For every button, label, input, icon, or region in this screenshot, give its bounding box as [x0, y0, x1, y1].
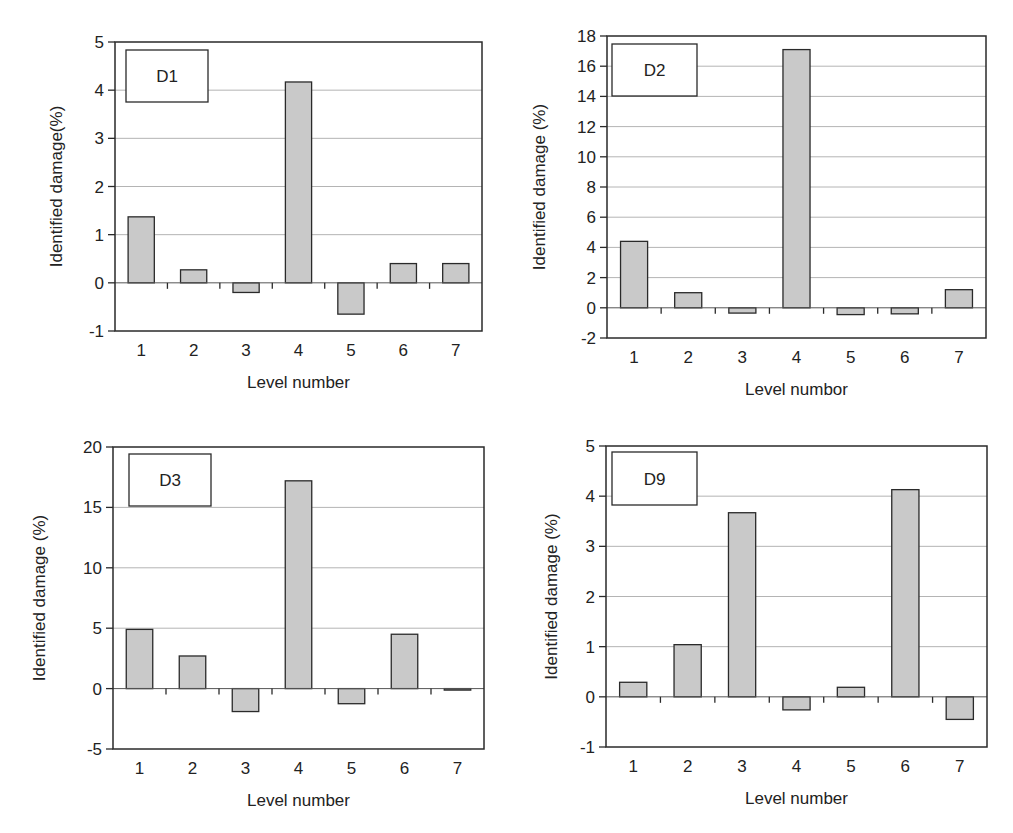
x-tick-label: 4	[792, 348, 801, 367]
bar-level-2	[181, 270, 207, 283]
y-tick-label: -1	[580, 738, 595, 757]
panel-label: D3	[159, 471, 181, 490]
y-tick-label: 8	[587, 178, 596, 197]
y-tick-label: 16	[577, 57, 596, 76]
x-tick-label: 2	[188, 759, 197, 778]
bar-level-5	[837, 687, 864, 697]
y-tick-label: 12	[577, 118, 596, 137]
x-tick-label: 6	[400, 759, 409, 778]
y-tick-label: -1	[89, 322, 104, 341]
y-tick-label: 5	[95, 33, 104, 52]
bar-level-5	[338, 283, 364, 314]
x-tick-label: 5	[846, 348, 855, 367]
bar-level-4	[783, 697, 810, 710]
y-tick-label: 10	[577, 148, 596, 167]
bar-level-6	[390, 264, 416, 283]
y-tick-label: 0	[587, 299, 596, 318]
bar-level-6	[892, 490, 919, 697]
bar-level-3	[729, 308, 756, 313]
x-axis-label: Level number	[247, 373, 350, 392]
panel-label-box: D9	[612, 452, 697, 505]
y-axis-label: Identified damage(%)	[47, 106, 66, 268]
chart-d2: D2-20246810121416181234567Level numborId…	[530, 27, 986, 399]
x-tick-label: 6	[399, 341, 408, 360]
x-tick-label: 2	[189, 341, 198, 360]
panel-label-box: D2	[612, 44, 697, 96]
y-tick-label: 3	[95, 129, 104, 148]
chart-d3: D3-5051015201234567Level numberIdentifie…	[30, 438, 484, 810]
y-tick-label: 14	[577, 87, 596, 106]
bar-level-2	[674, 645, 701, 697]
x-tick-label: 6	[900, 348, 909, 367]
y-tick-label: 1	[586, 638, 595, 657]
x-axis-label: Level number	[247, 791, 350, 810]
y-tick-label: 18	[577, 27, 596, 46]
panel-label-box: D3	[129, 454, 211, 506]
y-tick-label: 1	[95, 226, 104, 245]
figure: D1-10123451234567Level numberIdentified …	[0, 0, 1013, 833]
x-tick-label: 5	[346, 341, 355, 360]
bar-level-4	[285, 82, 311, 283]
bar-level-5	[837, 308, 864, 315]
y-tick-label: 6	[587, 208, 596, 227]
panel-label-box: D1	[126, 50, 208, 102]
y-tick-label: 0	[93, 680, 102, 699]
x-tick-label: 5	[846, 757, 855, 776]
x-tick-label: 1	[628, 757, 637, 776]
x-tick-label: 7	[453, 759, 462, 778]
y-tick-label: 4	[587, 238, 596, 257]
panel-label: D9	[644, 470, 666, 489]
bar-level-5	[338, 689, 365, 704]
y-tick-label: 2	[95, 178, 104, 197]
x-tick-label: 4	[294, 341, 303, 360]
bar-level-6	[891, 308, 918, 314]
bar-level-2	[179, 656, 206, 689]
y-axis-label: Identified damage (%)	[30, 515, 49, 681]
x-tick-label: 3	[738, 348, 747, 367]
bar-level-7	[946, 697, 973, 720]
bar-level-3	[728, 513, 755, 697]
x-tick-label: 4	[792, 757, 801, 776]
x-tick-label: 1	[136, 341, 145, 360]
x-tick-label: 2	[683, 348, 692, 367]
x-tick-label: 2	[683, 757, 692, 776]
bar-level-1	[621, 241, 648, 307]
panel-label: D1	[156, 67, 178, 86]
y-tick-label: 20	[83, 438, 102, 457]
y-tick-label: -5	[87, 740, 102, 759]
bar-level-4	[285, 481, 312, 689]
y-tick-label: 10	[83, 559, 102, 578]
x-tick-label: 1	[135, 759, 144, 778]
bar-level-7	[443, 264, 469, 283]
x-axis-label: Level number	[745, 789, 848, 808]
x-tick-label: 3	[737, 757, 746, 776]
bar-level-2	[675, 293, 702, 308]
x-tick-label: 7	[955, 757, 964, 776]
x-tick-label: 6	[901, 757, 910, 776]
x-tick-label: 7	[954, 348, 963, 367]
bar-level-3	[232, 689, 259, 712]
y-tick-label: -2	[581, 329, 596, 348]
x-tick-label: 7	[451, 341, 460, 360]
x-tick-label: 3	[241, 341, 250, 360]
bar-level-7	[945, 290, 972, 308]
bar-level-1	[128, 217, 154, 283]
x-tick-label: 3	[241, 759, 250, 778]
bar-level-1	[620, 682, 647, 697]
panel-label: D2	[644, 61, 666, 80]
bar-level-6	[391, 634, 418, 688]
y-tick-label: 4	[95, 81, 104, 100]
y-tick-label: 2	[586, 588, 595, 607]
y-axis-label: Identified damage (%)	[542, 513, 561, 679]
bar-level-3	[233, 283, 259, 293]
x-axis-label: Level numbor	[745, 380, 848, 399]
x-tick-label: 5	[347, 759, 356, 778]
y-tick-label: 3	[586, 537, 595, 556]
y-tick-label: 0	[95, 274, 104, 293]
bar-level-4	[783, 50, 810, 308]
x-tick-label: 4	[294, 759, 303, 778]
y-axis-label: Identified damage (%)	[530, 104, 549, 270]
y-tick-label: 5	[586, 437, 595, 456]
x-tick-label: 1	[629, 348, 638, 367]
y-tick-label: 5	[93, 619, 102, 638]
